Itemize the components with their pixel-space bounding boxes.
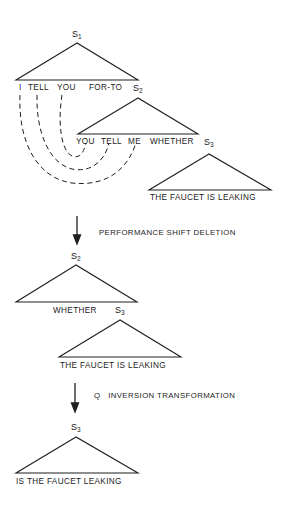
node-s2-stage2: S2 [71,251,81,264]
s3-triangle-stage1 [149,154,271,190]
node-s3-stage1: S3 [204,137,214,150]
transform-label-performance-shift-deletion: PERFORMANCE SHIFT DELETION [99,228,236,237]
terminal-the-faucet-is-leaking-stage2: THE FAUCET IS LEAKING [60,361,166,371]
arrow-2-head [72,403,79,412]
terminal-whether-stage2: WHETHER [53,306,97,316]
link-tell-tell [37,95,109,170]
tree-lines [0,0,285,508]
terminal-for-to: FOR-TO [89,83,122,93]
s1-triangle [16,43,138,80]
arrow-1-head [74,235,81,244]
node-s1: S1 [72,29,82,42]
terminal-tell-2: TELL [101,137,122,147]
syntax-tree-diagram: S1 I TELL YOU FOR-TO S2 YOU TELL ME WHET… [0,0,285,508]
terminal-i: I [19,83,22,93]
link-you-you [60,95,86,157]
node-s3-stage3: S3 [71,422,81,435]
s2-triangle-stage2 [16,265,137,302]
terminal-whether: WHETHER [150,137,194,147]
s3-triangle-stage3 [16,437,138,473]
node-s2-stage1: S2 [133,83,143,96]
terminal-you-2: YOU [76,137,95,147]
s3-triangle-stage2 [59,320,181,357]
node-s3-stage2: S3 [115,305,125,318]
transform-label-q-inversion: Q INVERSION TRANSFORMATION [94,391,235,400]
terminal-me: ME [128,137,141,147]
terminal-is-the-faucet-leaking: IS THE FAUCET LEAKING [16,477,122,487]
terminal-the-faucet-is-leaking: THE FAUCET IS LEAKING [150,193,256,203]
s2-triangle-stage1 [78,98,198,134]
terminal-tell: TELL [28,83,49,93]
terminal-you: YOU [57,83,76,93]
